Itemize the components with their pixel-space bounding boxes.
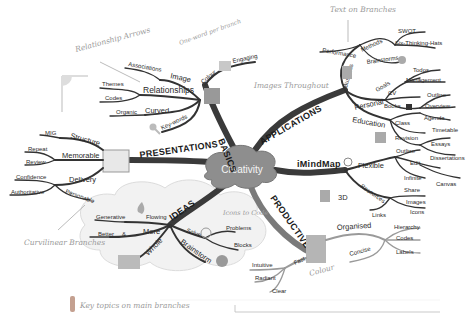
node-structure[interactable]: Structure	[69, 131, 101, 148]
imindmap-subbranch	[345, 170, 390, 198]
node-outline-books[interactable]: Outline	[427, 92, 447, 98]
node-themes[interactable]: Themes	[102, 81, 124, 87]
note-curvilinear: Curvilinear Branches	[24, 238, 105, 247]
node-links[interactable]: Links	[372, 212, 386, 218]
node-more[interactable]: More	[143, 227, 160, 236]
note-relationship-arrows: Relationship Arrows	[73, 25, 151, 54]
node-books[interactable]: Books	[384, 103, 401, 109]
node-timetable[interactable]: Timetable	[432, 127, 459, 133]
node-flowing[interactable]: Flowing	[146, 214, 167, 220]
node-essays[interactable]: Essays	[431, 141, 450, 147]
basics-subbranch	[100, 88, 140, 95]
book-dark-icon	[406, 104, 412, 110]
node-infinite[interactable]: Infinite	[404, 175, 422, 181]
node-intuitive[interactable]: Intuitive	[252, 262, 273, 268]
node-confidence[interactable]: Confidence	[16, 174, 47, 180]
node-associations[interactable]: Associations	[128, 61, 162, 73]
flipchart-icon	[103, 150, 129, 172]
node-six-thinking-hats[interactable]: Six-Thinking-Hats	[395, 40, 442, 46]
filing-icon	[306, 235, 326, 263]
class-icon	[375, 132, 386, 143]
node-delivery[interactable]: Delivery	[69, 175, 96, 184]
node-canvas[interactable]: Canvas	[436, 181, 456, 187]
branch-presentations	[130, 160, 210, 162]
node-radiant[interactable]: Radiant	[255, 275, 276, 281]
pencils-icon	[204, 88, 220, 104]
productive-subbranch	[326, 234, 385, 240]
node-authoritative[interactable]: Authoritative	[11, 189, 45, 195]
node-clear[interactable]: Clear	[272, 288, 286, 294]
main-label-imindmap[interactable]: iMindMap	[297, 159, 341, 169]
node-icons[interactable]: Icons	[410, 209, 424, 215]
node-personal[interactable]: Personal	[354, 97, 385, 112]
center-node[interactable]: Creativity	[205, 145, 277, 188]
node-performance[interactable]: Performance	[322, 47, 358, 59]
node-colour[interactable]: Colour	[200, 69, 217, 85]
apple-icon	[216, 255, 228, 267]
note-text-on-branches: Text on Branches	[330, 5, 396, 14]
key-icon	[150, 124, 161, 135]
basics-subbranch	[140, 95, 200, 100]
productive-subbranch	[250, 268, 285, 270]
node-hierarchy[interactable]: Hierarchy	[394, 224, 420, 230]
branch-imindmap	[275, 170, 345, 173]
node-class[interactable]: Class	[395, 120, 410, 126]
node-codes[interactable]: Codes	[105, 95, 122, 101]
note-images-throughout: Images Throughout	[253, 81, 330, 90]
node-agenda[interactable]: Agenda	[424, 115, 445, 121]
node-resources[interactable]: Resources	[359, 183, 386, 204]
pres-subbranch	[15, 180, 55, 185]
node-organised[interactable]: Organised	[337, 221, 372, 232]
mind-map-canvas: Creativity BASICS APPLICATIONS iMindMap …	[0, 0, 473, 321]
node-curved[interactable]: Curved	[145, 106, 169, 115]
colour-palette-icon	[219, 61, 231, 71]
node-flexible[interactable]: Flexible	[358, 161, 384, 170]
imindmap-subbranch	[390, 196, 425, 198]
thermometer-icon	[70, 296, 75, 312]
apps-subbranch	[385, 97, 420, 100]
node-cv[interactable]: CV	[388, 90, 396, 96]
main-label-presentations[interactable]: PRESENTATIONS	[139, 139, 219, 160]
node-organic[interactable]: Organic	[116, 109, 137, 115]
node-labels[interactable]: Labels	[396, 249, 414, 255]
3d-blocks-icon	[320, 190, 330, 202]
whole-picture-icon	[118, 255, 140, 269]
node-better[interactable]: Better	[98, 231, 114, 237]
note-one-word: One-word per branch	[178, 17, 242, 47]
node-repeat[interactable]: Repeat	[28, 146, 48, 152]
node-blocks[interactable]: Blocks	[234, 242, 252, 248]
note-key-topics: Key topics on main branches	[79, 301, 190, 310]
node-share[interactable]: Share	[404, 187, 421, 193]
corner-quarter-circle	[62, 76, 72, 86]
node-fast[interactable]: Fast	[293, 255, 306, 266]
node-review[interactable]: Review	[26, 159, 46, 165]
node-management[interactable]: Management	[406, 77, 441, 83]
bottom-guide-line	[235, 305, 440, 312]
basics-subbranch	[110, 115, 145, 116]
book-icon	[342, 66, 352, 79]
brain-icon	[398, 56, 406, 64]
note-icons-code: Icons to Code	[222, 209, 268, 217]
node-personable[interactable]: Personable	[65, 188, 96, 204]
node-edit[interactable]: Edit	[410, 160, 421, 166]
node-swot[interactable]: SWOT	[398, 28, 416, 34]
node-mig[interactable]: MIG	[45, 130, 57, 136]
apps-subbranch	[390, 113, 420, 120]
node-images[interactable]: Images	[406, 199, 426, 205]
node-memorable[interactable]: Memorable	[62, 151, 100, 160]
node-problems[interactable]: Problems	[226, 225, 251, 231]
node-todos[interactable]: Todos	[413, 67, 429, 73]
note-colour: Colour	[308, 263, 335, 278]
node-ampersand[interactable]: &	[122, 231, 126, 237]
node-generative[interactable]: Generative	[96, 214, 126, 220]
node-3d[interactable]: 3D	[338, 193, 348, 202]
node-concise[interactable]: Concise	[349, 245, 372, 257]
node-revision[interactable]: Revision	[395, 135, 418, 141]
flexible-icon	[344, 158, 352, 166]
node-overview[interactable]: Overview	[425, 103, 451, 109]
node-dissertations[interactable]: Dissertations	[430, 155, 465, 161]
node-relationships[interactable]: Relationships	[143, 85, 194, 95]
imindmap-subbranch	[420, 165, 460, 178]
main-label-applications[interactable]: APPLICATIONS	[258, 103, 324, 147]
node-codes-prod[interactable]: Codes	[396, 235, 413, 241]
